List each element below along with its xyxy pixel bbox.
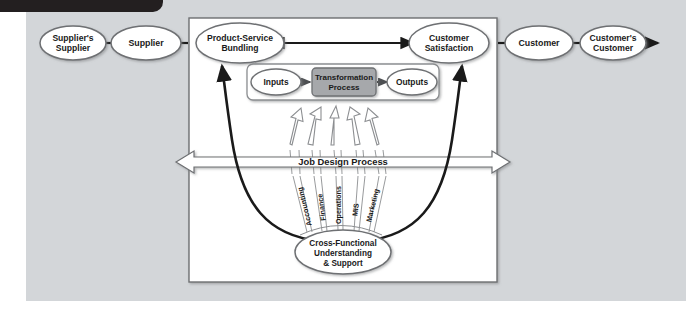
node-cross-functional-line1: Cross-Functional xyxy=(309,239,376,248)
node-customer-label: Customer xyxy=(518,38,560,48)
node-cross-functional-line3: & Support xyxy=(323,259,363,268)
node-product-service-line1: Product-Service xyxy=(207,33,273,43)
node-suppliers-supplier-line2: Supplier xyxy=(56,43,91,53)
node-customers-customer-line1: Customer's xyxy=(590,33,637,43)
node-customer[interactable]: Customer xyxy=(505,26,573,60)
node-suppliers-supplier-line1: Supplier's xyxy=(52,33,93,43)
node-transformation-line1: Transformation xyxy=(315,73,373,82)
function-label-operations: Operations xyxy=(334,186,343,224)
node-transformation-line2: Process xyxy=(328,83,360,92)
node-outputs[interactable]: Outputs xyxy=(387,69,437,95)
node-customer-satisfaction-line2: Satisfaction xyxy=(425,43,474,53)
node-product-service-line2: Bundling xyxy=(221,43,258,53)
node-inputs-label: Inputs xyxy=(263,77,288,87)
job-design-process-label: Job Design Process xyxy=(298,156,388,167)
node-cross-functional-understanding[interactable]: Cross-Functional Understanding & Support xyxy=(295,230,391,274)
node-suppliers-supplier[interactable]: Supplier's Supplier xyxy=(40,26,106,60)
function-label-mis: MIS xyxy=(350,203,361,217)
node-inputs[interactable]: Inputs xyxy=(251,69,301,95)
node-customer-satisfaction-line1: Customer xyxy=(429,33,470,43)
node-cross-functional-line2: Understanding xyxy=(314,249,372,258)
diagram-page: Accounting Finance Operations MIS Market… xyxy=(0,0,686,313)
node-supplier-label: Supplier xyxy=(128,38,164,48)
node-product-service-bundling[interactable]: Product-Service Bundling xyxy=(196,23,284,63)
node-supplier[interactable]: Supplier xyxy=(111,26,181,60)
node-customer-satisfaction[interactable]: Customer Satisfaction xyxy=(409,23,489,63)
node-customers-customer-line2: Customer xyxy=(593,43,634,53)
node-transformation-process[interactable]: Transformation Process xyxy=(312,68,376,96)
value-chain-diagram: Accounting Finance Operations MIS Market… xyxy=(0,0,686,313)
node-outputs-label: Outputs xyxy=(396,77,428,87)
node-customers-customer[interactable]: Customer's Customer xyxy=(580,26,646,60)
